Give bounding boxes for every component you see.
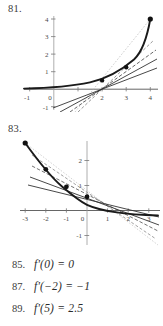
answer-expression-87: f′(−2) = −1 [34, 280, 90, 292]
answer-number-89: 89. [12, 303, 34, 314]
xtick-label-0: 0 [48, 94, 52, 102]
tangent-lines [25, 143, 159, 245]
xtick-label-4: 4 [149, 94, 153, 102]
ytick-label--1: -1 [43, 104, 49, 112]
ytick-label-4: 4 [45, 16, 49, 24]
ytick-label--1: -1 [76, 232, 82, 240]
answer-row-85: 85. f′(0) = 0 [0, 258, 163, 280]
xtick-label-2: 2 [126, 215, 130, 223]
curve-83 [25, 143, 158, 216]
graph-81: -1 0 2 3 4 -1 1 2 3 4 [20, 12, 160, 112]
tangent-lines [53, 19, 157, 112]
answer-row-87: 87. f′(−2) = −1 [0, 280, 163, 302]
answer-expression-85: f′(0) = 0 [34, 258, 74, 270]
answer-list: 85. f′(0) = 0 87. f′(−2) = −1 89. f′(5) … [0, 258, 163, 324]
xtick-label-1: 1 [106, 215, 110, 223]
xtick-label-0: 0 [81, 215, 85, 223]
xtick-label-2: 2 [100, 94, 104, 102]
xtick-label--3: -3 [22, 215, 28, 223]
answer-expression-89: f′(5) = 2.5 [34, 302, 83, 314]
xtick-label-3: 3 [124, 94, 128, 102]
data-points [23, 140, 90, 199]
answer-row-89: 89. f′(5) = 2.5 [0, 302, 163, 324]
graph-83: -3 -2 -1 0 1 2 3 -1 1 2 [12, 133, 162, 248]
answer-number-85: 85. [12, 259, 34, 270]
answer-number-87: 87. [12, 281, 34, 292]
xtick-label--1: -1 [24, 94, 30, 102]
xtick-label--2: -2 [43, 215, 49, 223]
xtick-label--1: -1 [63, 215, 69, 223]
ytick-label-2: 2 [79, 157, 83, 165]
textbook-answer-page: 81. [0, 0, 163, 326]
ytick-label-3: 3 [45, 33, 49, 41]
ytick-label-2: 2 [45, 51, 49, 59]
ytick-label-1: 1 [45, 68, 49, 76]
